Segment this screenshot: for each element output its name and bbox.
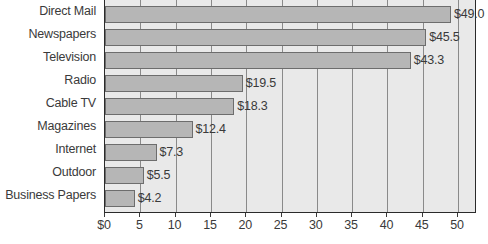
x-axis-tick xyxy=(245,213,246,217)
y-axis-tick-label: Radio xyxy=(64,73,96,87)
x-axis-tick-label: 10 xyxy=(168,218,182,232)
x-axis-tick-label: 40 xyxy=(380,218,394,232)
x-axis-tick-label: 20 xyxy=(238,218,252,232)
x-axis: $05101520253035404550 xyxy=(104,213,476,244)
y-axis-category-labels: Direct MailNewspapersTelevisionRadioCabl… xyxy=(0,0,100,213)
bar-value-label: $18.3 xyxy=(237,99,267,113)
y-axis-tick-label: Business Papers xyxy=(5,188,96,202)
bar xyxy=(105,75,243,92)
x-axis-tick-label: 30 xyxy=(309,218,323,232)
x-axis-tick xyxy=(422,213,423,217)
x-axis-tick xyxy=(104,213,105,217)
x-axis-tick xyxy=(139,213,140,217)
y-axis-tick-label: Direct Mail xyxy=(39,4,96,18)
y-axis-tick-label: Cable TV xyxy=(46,96,96,110)
bar-chart: Direct MailNewspapersTelevisionRadioCabl… xyxy=(0,0,488,244)
bar-value-label: $5.5 xyxy=(147,168,171,182)
bar-value-label: $4.2 xyxy=(138,191,162,205)
x-axis-tick xyxy=(457,213,458,217)
bar-value-label: $45.5 xyxy=(429,30,459,44)
x-axis-tick xyxy=(175,213,176,217)
bar xyxy=(105,52,411,69)
y-axis-tick-label: Internet xyxy=(55,142,96,156)
x-axis-tick-label: 50 xyxy=(450,218,464,232)
x-axis-tick-label: 5 xyxy=(136,218,143,232)
bar xyxy=(105,98,234,115)
bar-value-label: $49.0 xyxy=(454,7,484,21)
y-axis-tick-label: Magazines xyxy=(37,119,96,133)
x-axis-tick xyxy=(316,213,317,217)
x-axis-tick-label: 15 xyxy=(203,218,217,232)
bar xyxy=(105,190,135,207)
x-axis-tick xyxy=(351,213,352,217)
y-axis-tick-label: Television xyxy=(43,50,96,64)
bar-value-label: $43.3 xyxy=(414,53,444,67)
bar xyxy=(105,167,144,184)
x-axis-tick-label: 25 xyxy=(274,218,288,232)
x-axis-tick xyxy=(281,213,282,217)
bar-value-label: $7.3 xyxy=(160,145,184,159)
x-axis-tick-label: 45 xyxy=(415,218,429,232)
x-axis-tick xyxy=(386,213,387,217)
x-axis-tick xyxy=(210,213,211,217)
x-axis-tick-label: 35 xyxy=(344,218,358,232)
y-axis-tick-label: Newspapers xyxy=(29,27,96,41)
bar xyxy=(105,6,451,23)
bar xyxy=(105,29,426,46)
bar-value-label: $19.5 xyxy=(246,76,276,90)
bar xyxy=(105,144,157,161)
bar-value-label: $12.4 xyxy=(196,122,226,136)
bar xyxy=(105,121,193,138)
y-axis-tick-label: Outdoor xyxy=(52,165,96,179)
x-axis-tick-label: $0 xyxy=(97,218,111,232)
